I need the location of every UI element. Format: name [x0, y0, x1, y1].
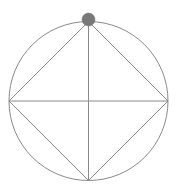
top-vertex-marker [82, 13, 95, 26]
geometry-diagram [0, 0, 178, 193]
figure-canvas [0, 0, 178, 193]
